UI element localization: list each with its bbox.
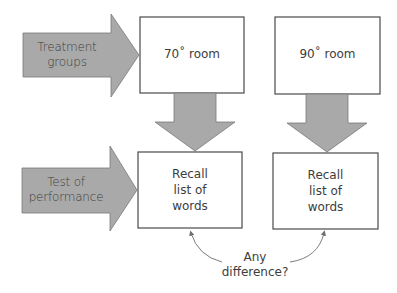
down-arrow-left bbox=[155, 93, 235, 151]
test-label-line1: Test of bbox=[22, 175, 110, 190]
any-difference-line1: Any bbox=[205, 250, 305, 265]
recall-right-line1: Recall bbox=[273, 167, 378, 183]
recall-left-line3: words bbox=[138, 198, 242, 214]
down-arrow-right bbox=[287, 94, 367, 152]
test-label-line2: performance bbox=[22, 190, 110, 205]
box-recall-right-text: Recall list of words bbox=[273, 167, 378, 215]
treatment-label-line1: Treatment bbox=[23, 40, 111, 55]
recall-right-line3: words bbox=[273, 199, 378, 215]
treatment-label-line2: groups bbox=[23, 55, 111, 70]
recall-left-line1: Recall bbox=[138, 166, 242, 182]
any-difference-line2: difference? bbox=[205, 265, 305, 280]
test-of-performance-label: Test of performance bbox=[22, 175, 110, 205]
any-difference-label: Any difference? bbox=[205, 250, 305, 280]
box-90-room-label: 90˚ room bbox=[275, 46, 380, 62]
recall-right-line2: list of bbox=[273, 183, 378, 199]
treatment-groups-label: Treatment groups bbox=[23, 40, 111, 70]
recall-left-line2: list of bbox=[138, 182, 242, 198]
box-70-room-label: 70˚ room bbox=[140, 46, 244, 62]
box-recall-left-text: Recall list of words bbox=[138, 166, 242, 214]
